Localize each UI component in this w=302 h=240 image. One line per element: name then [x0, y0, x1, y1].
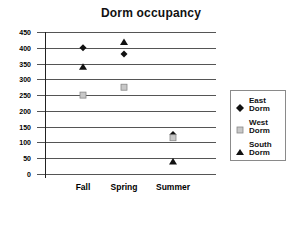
- diamond-marker-icon: [121, 51, 128, 58]
- legend-item-east-dorm: East Dorm: [235, 97, 283, 113]
- legend-item-west-dorm: West Dorm: [235, 119, 283, 135]
- square-marker-icon: [170, 135, 176, 141]
- data-points: [79, 39, 177, 165]
- y-tick-label: 100: [19, 139, 31, 146]
- square-marker-icon: [80, 92, 86, 98]
- triangle-marker-icon: [120, 39, 128, 46]
- triangle-marker-icon: [235, 143, 245, 153]
- y-tick-label: 350: [19, 61, 31, 68]
- legend: East Dorm West Dorm South Dorm: [230, 90, 286, 161]
- square-marker-icon: [121, 84, 127, 90]
- legend-label-line2: Dorm: [249, 127, 283, 135]
- y-tick-label: 0: [27, 171, 31, 178]
- y-axis-tick-labels: 050100150200250300350400450: [19, 29, 31, 178]
- x-category-label: Summer: [156, 182, 191, 192]
- y-tick-label: 450: [19, 29, 31, 36]
- diamond-marker-icon: [235, 99, 245, 109]
- y-tick-label: 250: [19, 92, 31, 99]
- x-category-label: Spring: [111, 182, 138, 192]
- legend-item-south-dorm: South Dorm: [235, 141, 283, 157]
- y-tick-label: 300: [19, 76, 31, 83]
- y-tick-label: 400: [19, 45, 31, 52]
- x-axis-category-labels: FallSpringSummer: [76, 182, 191, 192]
- y-tick-label: 50: [23, 155, 31, 162]
- legend-label-line2: Dorm: [249, 105, 283, 113]
- diamond-marker-icon: [80, 44, 87, 51]
- legend-label-line2: Dorm: [249, 149, 283, 157]
- x-category-label: Fall: [76, 182, 91, 192]
- y-tick-label: 200: [19, 108, 31, 115]
- y-tick-label: 150: [19, 124, 31, 131]
- square-marker-icon: [235, 121, 245, 131]
